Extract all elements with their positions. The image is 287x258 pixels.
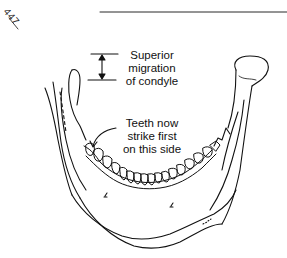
annotation-line: on this side [112, 143, 192, 156]
annotation-line: strike first [112, 130, 192, 143]
annotation-line: migration [112, 62, 192, 75]
annotation-condyle-migration: Superior migration of condyle [112, 49, 192, 88]
annotation-line: Superior [112, 49, 192, 62]
annotation-teeth-strike: Teeth now strike first on this side [112, 117, 192, 156]
annotation-line: Teeth now [112, 117, 192, 130]
mandible-diagram: 447 Superior migration of condyle Teeth … [0, 0, 287, 258]
annotation-line: of condyle [112, 75, 192, 88]
